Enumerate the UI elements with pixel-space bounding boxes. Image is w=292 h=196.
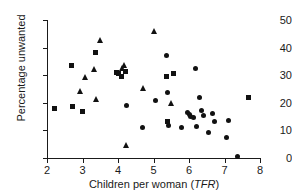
x-tick-label: 4 <box>108 165 128 176</box>
data-point-circle <box>193 66 198 71</box>
data-point-circle <box>206 130 211 135</box>
data-point-square <box>70 104 75 109</box>
x-axis-title-plain: Children per woman ( <box>89 178 194 190</box>
x-tick-label: 5 <box>144 165 164 176</box>
data-point-square <box>171 71 176 76</box>
data-point-triangle <box>77 88 83 94</box>
data-point-triangle <box>97 37 103 43</box>
x-tick-label: 7 <box>215 165 235 176</box>
x-tick-label: 8 <box>250 165 270 176</box>
x-tick-mark <box>260 159 261 163</box>
data-point-triangle <box>123 142 129 148</box>
x-axis-title-tail: ) <box>215 178 219 190</box>
data-point-circle <box>210 111 215 116</box>
x-tick-label: 3 <box>73 165 93 176</box>
x-tick-mark <box>225 159 226 163</box>
data-point-circle <box>194 124 199 129</box>
data-point-triangle <box>151 28 157 34</box>
data-point-square <box>119 74 124 79</box>
scatter-plot-figure: 01020304050 2345678 Percentage unwanted … <box>0 0 292 196</box>
data-point-circle <box>165 90 170 95</box>
data-point-square <box>165 119 170 124</box>
data-point-circle <box>197 95 202 100</box>
data-point-triangle <box>93 96 99 102</box>
data-point-square <box>69 63 74 68</box>
data-point-triangle <box>168 100 174 106</box>
x-axis-title-tfr: TFR <box>194 178 215 190</box>
y-axis-title: Percentage unwanted <box>15 3 27 133</box>
x-tick-mark <box>189 159 190 163</box>
data-point-triangle <box>82 74 88 80</box>
x-tick-mark <box>118 159 119 163</box>
data-point-square <box>52 106 57 111</box>
data-point-circle <box>226 118 231 123</box>
x-tick-mark <box>154 159 155 163</box>
data-point-triangle <box>121 62 127 68</box>
x-tick-mark <box>83 159 84 163</box>
data-point-square <box>164 74 169 79</box>
data-point-square <box>246 95 251 100</box>
data-point-circle <box>191 115 196 120</box>
data-point-square <box>80 109 85 114</box>
x-tick-label: 2 <box>37 165 57 176</box>
data-point-triangle <box>91 66 97 72</box>
data-point-square <box>93 50 98 55</box>
data-point-triangle <box>140 85 146 91</box>
x-axis-title: Children per woman (TFR) <box>47 178 261 190</box>
x-tick-label: 6 <box>179 165 199 176</box>
x-tick-mark <box>47 159 48 163</box>
